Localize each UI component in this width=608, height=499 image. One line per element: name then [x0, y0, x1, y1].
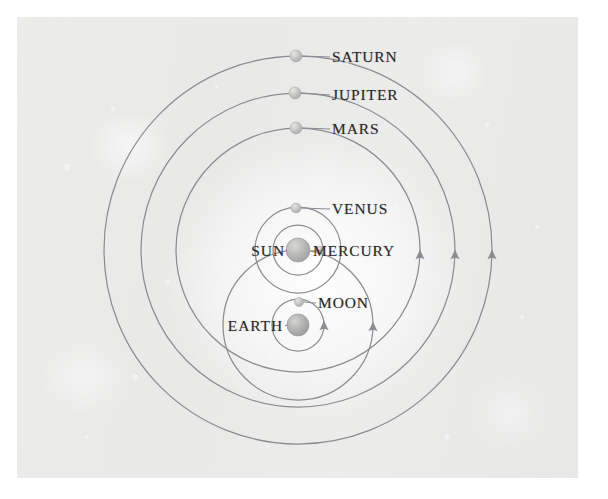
sun-body	[286, 238, 310, 262]
label-sun: SUN	[251, 243, 285, 259]
label-moon: MOON	[318, 295, 369, 311]
label-mars: MARS	[332, 121, 380, 137]
label-saturn: SATURN	[332, 49, 398, 65]
orbit-diagram-svg	[17, 17, 578, 478]
diagram-plate: SATURNJUPITERMARSVENUSMERCURYSUNMOONEART…	[17, 17, 578, 478]
jupiter-body	[289, 87, 301, 99]
earth-body	[287, 314, 309, 336]
label-earth: EARTH	[228, 318, 283, 334]
venus-body	[291, 203, 301, 213]
leader-jupiter	[301, 93, 330, 95]
figure-page: SATURNJUPITERMARSVENUSMERCURYSUNMOONEART…	[0, 0, 608, 499]
leader-saturn	[302, 56, 330, 57]
label-mercury: MERCURY	[313, 243, 395, 259]
label-venus: VENUS	[332, 201, 388, 217]
leader-venus	[301, 208, 330, 209]
mars-body	[290, 122, 302, 134]
saturn-body	[290, 50, 302, 62]
direction-arrows	[319, 250, 496, 332]
leader-sun	[286, 250, 287, 251]
moon-body	[295, 298, 304, 307]
label-jupiter: JUPITER	[332, 87, 399, 103]
leader-moon	[304, 302, 317, 303]
